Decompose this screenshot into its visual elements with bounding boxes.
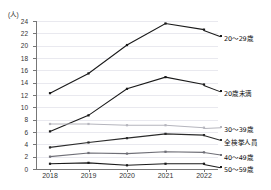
series-label-marker xyxy=(220,154,222,156)
series-line xyxy=(50,77,204,131)
series-label-2: 30～39歳 xyxy=(224,124,253,134)
series-label-1: 20歳未満 xyxy=(224,88,252,98)
series-marker xyxy=(87,114,89,116)
series-label-marker xyxy=(220,35,222,37)
series-marker xyxy=(126,44,128,46)
series-marker xyxy=(87,141,89,143)
series-marker xyxy=(126,164,128,166)
series-label-5: 50～59歳 xyxy=(224,164,253,174)
series-marker xyxy=(164,163,166,165)
series-label-leader xyxy=(204,127,221,129)
series-label-marker xyxy=(220,139,222,141)
series-marker xyxy=(49,130,51,132)
series-marker xyxy=(87,123,89,125)
series-marker xyxy=(164,151,166,153)
series-line xyxy=(50,23,204,93)
series-marker xyxy=(87,72,89,74)
series-marker xyxy=(164,76,166,78)
line-chart: (人) 024681012141618202224 20182019202020… xyxy=(0,0,271,190)
series-marker xyxy=(87,152,89,154)
series-marker xyxy=(164,124,166,126)
series-label-3: 全検挙人員 xyxy=(224,137,258,147)
series-label-marker xyxy=(220,126,222,128)
series-marker xyxy=(126,124,128,126)
series-marker xyxy=(87,162,89,164)
series-marker xyxy=(164,133,166,135)
series-label-4: 40～49歳 xyxy=(224,152,253,162)
series-marker xyxy=(49,123,51,125)
series-marker xyxy=(126,152,128,154)
series-label-marker xyxy=(220,166,222,168)
series-marker xyxy=(49,163,51,165)
series-line xyxy=(50,134,204,148)
series-marker xyxy=(126,88,128,90)
series-marker xyxy=(49,92,51,94)
series-marker xyxy=(126,137,128,139)
series-label-marker xyxy=(220,90,222,92)
series-marker xyxy=(49,146,51,148)
series-marker xyxy=(164,22,166,24)
series-marker xyxy=(49,156,51,158)
series-label-0: 20～29歳 xyxy=(224,33,253,43)
